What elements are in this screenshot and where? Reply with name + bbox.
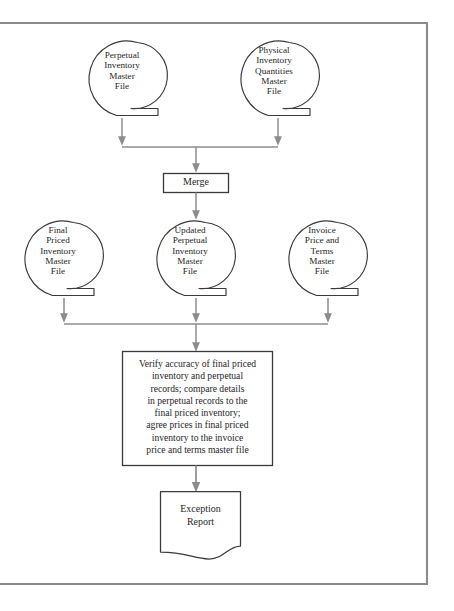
node-invoice-price-and-terms-master-file [289, 221, 367, 295]
node-perpetual-inventory-master-file [89, 41, 167, 115]
node-merge [164, 174, 229, 193]
flowchart-canvas: Perpetual Inventory Master File Physical… [0, 0, 454, 611]
node-updated-perpetual-inventory-master-file [157, 221, 235, 295]
node-verify-accuracy-process [123, 352, 273, 466]
node-final-priced-inventory-master-file [25, 221, 103, 295]
node-physical-inventory-quantities-master-file [241, 41, 319, 115]
node-exception-report [161, 492, 241, 560]
flowchart-svg [0, 0, 454, 611]
